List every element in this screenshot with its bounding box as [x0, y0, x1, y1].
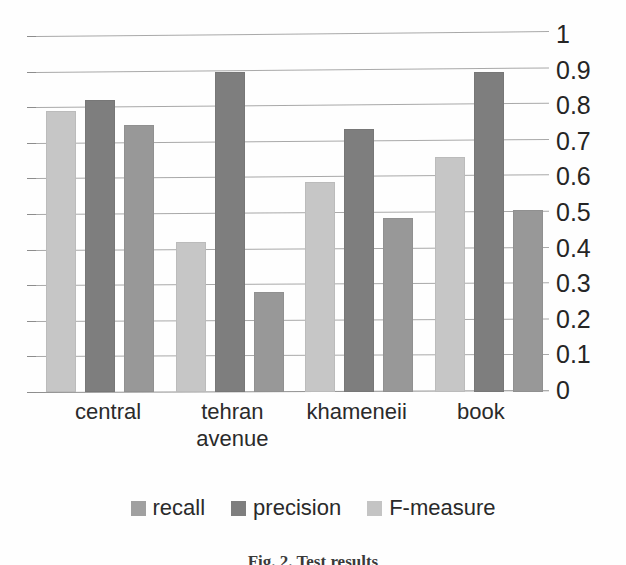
- y-axis-label-0.7: 0.7: [556, 129, 610, 154]
- bar-precision-tehran-avenue: [215, 72, 245, 392]
- bar-group-tehran-avenue: [176, 36, 284, 392]
- plot-area: [36, 36, 549, 392]
- y-axis-label-0.8: 0.8: [556, 93, 610, 118]
- legend-item-precision[interactable]: precision: [231, 495, 341, 521]
- figure-caption: Fig. 2. Test results: [0, 552, 626, 565]
- legend-item-recall[interactable]: recall: [131, 495, 206, 521]
- bar-recall-central: [46, 111, 76, 392]
- y-axis-label-0.2: 0.2: [556, 307, 610, 332]
- y-axis-label-0.3: 0.3: [556, 271, 610, 296]
- y-axis-label-0.6: 0.6: [556, 164, 610, 189]
- legend-label: recall: [153, 495, 206, 521]
- y-axis-labels: 10.90.80.70.60.50.40.30.20.10: [556, 0, 618, 565]
- x-axis-label-khameneii: khameneii: [295, 398, 419, 470]
- bar-f-measure-central: [124, 125, 154, 392]
- y-axis-label-0.5: 0.5: [556, 200, 610, 225]
- x-axis-label-tehran-avenue: tehranavenue: [170, 398, 294, 470]
- y-axis-label-0: 0: [556, 378, 610, 403]
- y-axis-label-1: 1: [556, 22, 610, 47]
- y-tick-1: [27, 36, 36, 37]
- y-tick-0.5: [27, 214, 36, 215]
- y-tick-0.9: [27, 72, 36, 73]
- x-axis-label-line: tehran: [170, 398, 294, 425]
- bar-precision-khameneii: [344, 129, 374, 392]
- y-tick-0.6: [27, 178, 36, 179]
- bar-recall-khameneii: [305, 182, 335, 392]
- legend-label: precision: [253, 495, 341, 521]
- bar-f-measure-khameneii: [383, 218, 413, 392]
- x-axis-labels: centraltehranavenuekhameneiibook: [36, 398, 549, 470]
- y-axis-label-0.1: 0.1: [556, 342, 610, 367]
- chart-legend: recallprecisionF-measure: [0, 495, 626, 521]
- legend-swatch-recall: [131, 501, 146, 516]
- bar-f-measure-book: [513, 210, 543, 392]
- y-tick-0.7: [27, 143, 36, 144]
- x-axis-label-book: book: [419, 398, 543, 470]
- x-axis-label-line: book: [419, 398, 543, 425]
- bar-recall-tehran-avenue: [176, 242, 206, 392]
- y-tick-0.1: [27, 356, 36, 357]
- bar-group-khameneii: [305, 36, 413, 392]
- y-axis-label-0.4: 0.4: [556, 236, 610, 261]
- x-axis-label-line: avenue: [170, 425, 294, 452]
- bar-groups: [36, 36, 549, 392]
- y-axis-label-0.9: 0.9: [556, 58, 610, 83]
- x-axis-label-line: central: [46, 398, 170, 425]
- bar-group-book: [435, 36, 543, 392]
- legend-swatch-f-measure: [367, 501, 382, 516]
- bar-precision-central: [85, 100, 115, 392]
- figure-bar-chart: 10.90.80.70.60.50.40.30.20.10 centralteh…: [0, 0, 626, 565]
- legend-swatch-precision: [231, 501, 246, 516]
- x-axis-label-line: khameneii: [295, 398, 419, 425]
- x-axis-label-central: central: [46, 398, 170, 470]
- y-tick-0.2: [27, 321, 36, 322]
- bar-group-central: [46, 36, 154, 392]
- legend-label: F-measure: [389, 495, 495, 521]
- bar-precision-book: [474, 72, 504, 392]
- y-tick-0.8: [27, 107, 36, 108]
- y-tick-0.3: [27, 285, 36, 286]
- y-tick-0: [27, 392, 36, 393]
- legend-item-f-measure[interactable]: F-measure: [367, 495, 495, 521]
- bar-f-measure-tehran-avenue: [254, 292, 284, 392]
- bar-recall-book: [435, 157, 465, 392]
- y-tick-0.4: [27, 250, 36, 251]
